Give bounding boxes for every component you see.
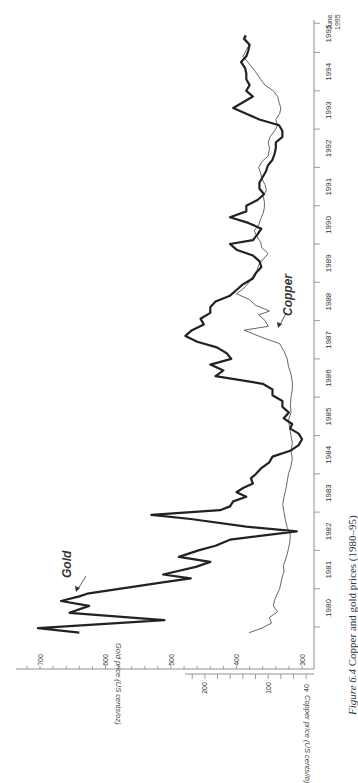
gold-price-line xyxy=(38,35,302,632)
gold-tick-label: 400 xyxy=(233,654,240,666)
copper-tick-label: 200 xyxy=(201,682,208,694)
year-tick-label: 1984 xyxy=(324,445,333,463)
year-tick-label: 1988 xyxy=(324,292,333,310)
year-tick-label: 1989 xyxy=(324,254,333,272)
copper-price-line xyxy=(237,35,293,632)
year-axis: 1980198119821983198419851986198719881989… xyxy=(314,20,333,669)
gold-label-arrow xyxy=(75,576,86,592)
year-tick-label: 1990 xyxy=(324,216,333,234)
gold-tick-label: 600 xyxy=(102,654,109,666)
end-date-month: June xyxy=(326,14,333,29)
year-tick-label: 1982 xyxy=(324,522,333,540)
gold-tick-label: 500 xyxy=(168,654,175,666)
gold-axis-title: Gold price (US cents/oz) xyxy=(114,643,123,725)
end-date-year: 1995 xyxy=(334,14,341,30)
year-tick-label: 1994 xyxy=(324,62,333,80)
year-tick-label: 1980 xyxy=(324,599,333,617)
year-tick-label: 1992 xyxy=(324,139,333,157)
copper-series-label: Copper xyxy=(281,274,295,316)
year-tick-label: 1985 xyxy=(324,407,333,425)
year-tick-label: 1983 xyxy=(324,484,333,502)
gold-tick-label: 700 xyxy=(37,654,44,666)
copper-axis-title: Copper price (US cents/lb) xyxy=(303,695,312,783)
end-date-label: June 1995 xyxy=(326,14,342,30)
caption-number: Figure 6.4 xyxy=(346,669,358,715)
year-tick-label: 1993 xyxy=(324,101,333,119)
copper-tick-label: 100 xyxy=(265,682,272,694)
copper-price-axis: 20010040 xyxy=(185,674,314,694)
gold-series-label: Gold xyxy=(60,551,74,578)
figure-caption: Figure 6.4 Copper and gold prices (1980–… xyxy=(346,515,358,715)
gold-tick-label: 300 xyxy=(299,654,306,666)
year-tick-label: 1991 xyxy=(324,177,333,195)
year-tick-label: 1987 xyxy=(324,330,333,348)
year-tick-label: 1981 xyxy=(324,560,333,578)
copper-tick-label: 40 xyxy=(303,684,310,692)
year-tick-label: 1986 xyxy=(324,369,333,387)
gold-price-axis: 700600500400300 xyxy=(16,654,314,669)
caption-text: Copper and gold prices (1980–95) xyxy=(346,515,358,666)
